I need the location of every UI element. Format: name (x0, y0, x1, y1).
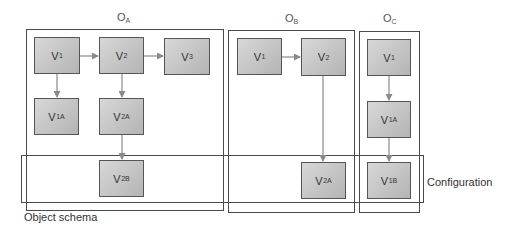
node-label: V (113, 111, 120, 123)
node-oa-v1a: V1A (34, 98, 79, 135)
node-subscript: 1A (389, 116, 398, 123)
node-label: V (383, 52, 390, 64)
node-subscript: 1 (59, 52, 63, 59)
node-subscript: 1A (56, 113, 65, 120)
node-oc-v1a: V1A (367, 101, 411, 138)
node-subscript: 1 (261, 53, 265, 60)
node-subscript: 1 (391, 54, 395, 61)
node-label: V (51, 50, 58, 62)
node-label: V (116, 50, 123, 62)
node-subscript: 2B (121, 175, 130, 182)
node-subscript: 3 (189, 53, 193, 60)
node-label: V (318, 51, 325, 63)
node-label: V (181, 51, 188, 63)
node-oc-v1b: V1B (367, 162, 411, 199)
node-label: V (48, 111, 55, 123)
node-oa-v2b: V2B (99, 160, 144, 197)
node-label: V (254, 51, 261, 63)
node-label: V (381, 114, 388, 126)
node-subscript: 1B (389, 177, 398, 184)
node-subscript: 2A (121, 113, 130, 120)
node-oa-v2a: V2A (99, 98, 144, 135)
configuration-caption: Configuration (427, 176, 492, 188)
node-oa-v2: V2 (99, 37, 144, 74)
object-schema-caption: Object schema (24, 211, 97, 223)
node-ob-v1: V1 (237, 38, 282, 75)
node-ob-v2: V2 (301, 38, 346, 76)
node-subscript: 2 (123, 52, 127, 59)
node-label: V (315, 175, 322, 187)
node-label: V (113, 173, 120, 185)
node-oa-v1: V1 (34, 37, 80, 74)
node-ob-v2a: V2A (301, 162, 346, 199)
node-subscript: 2 (325, 54, 329, 61)
node-oa-v3: V3 (164, 38, 210, 75)
node-oc-v1: V1 (367, 39, 411, 76)
node-label: V (381, 175, 388, 187)
node-subscript: 2A (323, 177, 332, 184)
